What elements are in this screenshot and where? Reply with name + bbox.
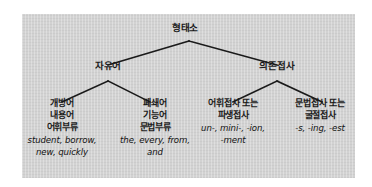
leaf-inflectional-ko-line-2: 굴절접사 <box>268 109 372 121</box>
leaf-inflectional-examples: -s, -ing, -est <box>268 122 372 134</box>
tree-node-free-morpheme: 자유어 <box>73 60 143 72</box>
tree-leaf-inflectional-affix: 문법접사 또는 굴절접사 -s, -ing, -est <box>268 97 372 134</box>
leaf-closed-example-line-2: and <box>100 146 210 158</box>
tree-node-bound-affix: 의존접사 <box>242 60 312 72</box>
tree-node-root: 형태소 <box>150 22 220 34</box>
leaf-inflectional-example-line-1: -s, -ing, -est <box>268 122 372 134</box>
leaf-derivational-example-line-2: -ment <box>178 134 288 146</box>
morpheme-classification-figure: 형태소 자유어 의존접사 개방어 내용어 어휘부류 student, borro… <box>0 0 372 187</box>
leaf-inflectional-ko-line-1: 문법접사 또는 <box>268 97 372 109</box>
